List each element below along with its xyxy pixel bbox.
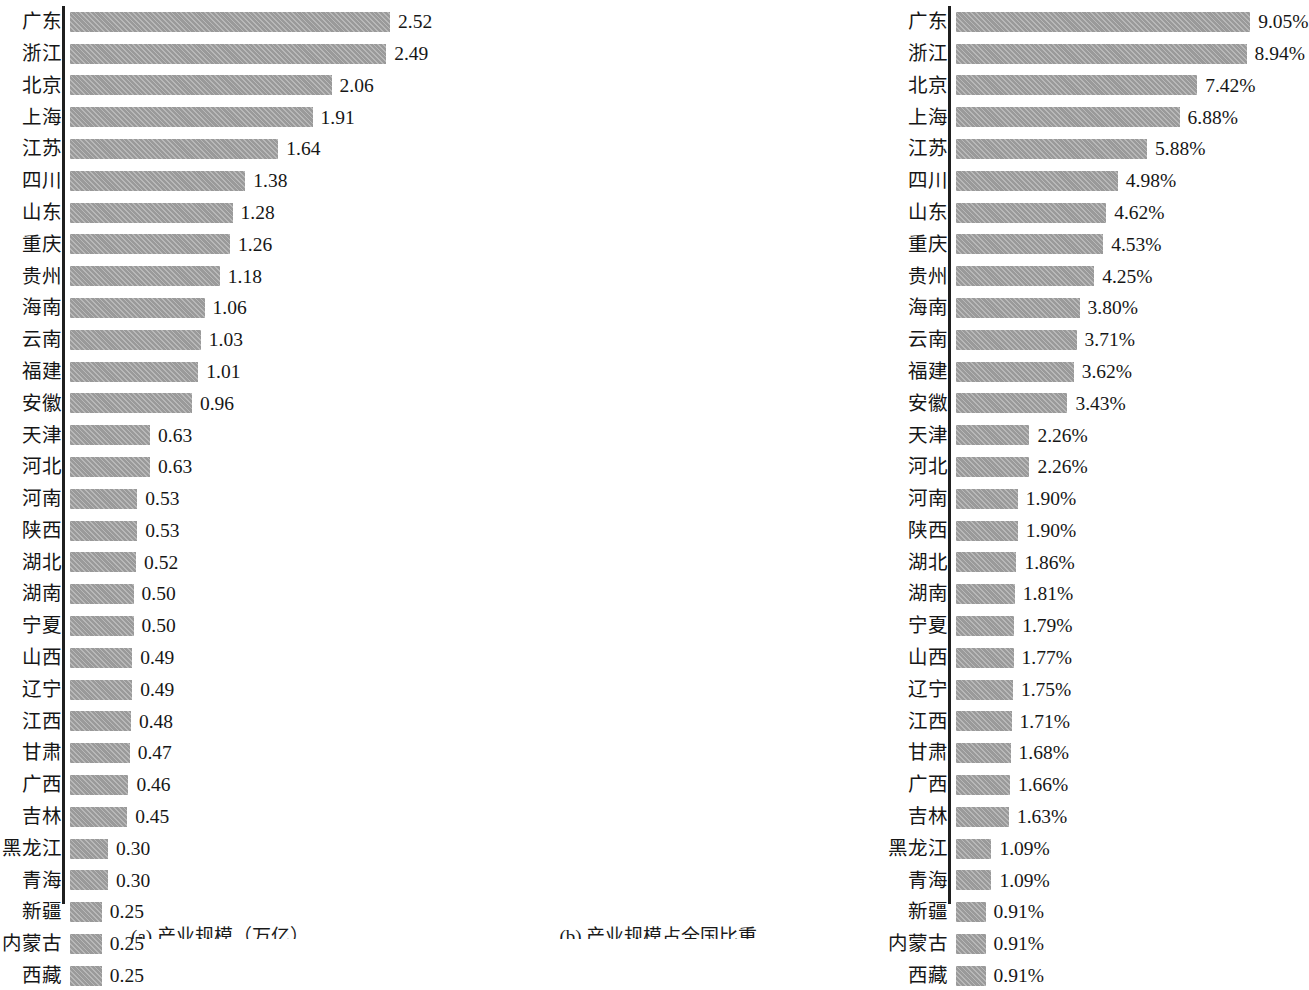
bar-row: 贵州4.25%	[440, 260, 877, 292]
bar	[956, 234, 1103, 254]
chart-panel-b: 广东9.05%浙江8.94%北京7.42%上海6.88%江苏5.88%四川4.9…	[440, 0, 877, 939]
bar-row: 安徽0.96	[0, 388, 440, 420]
bar-container: 3.71%	[953, 324, 1135, 356]
bar	[956, 12, 1250, 32]
bar	[956, 489, 1018, 509]
category-label: 陕西	[440, 521, 953, 541]
bar-row: 福建3.62%	[440, 356, 877, 388]
value-label: 1.18	[220, 267, 262, 287]
bar	[70, 75, 332, 95]
category-label: 云南	[440, 330, 953, 350]
category-label: 江苏	[0, 139, 67, 159]
bar-container: 1.38	[67, 165, 440, 197]
category-label: 广西	[0, 775, 67, 795]
category-label: 天津	[440, 426, 953, 446]
category-label: 广东	[0, 12, 67, 32]
category-label: 甘肃	[440, 743, 953, 763]
category-label: 新疆	[0, 902, 67, 922]
bar-container: 4.25%	[953, 260, 1153, 292]
bar-container: 1.77%	[953, 642, 1072, 674]
bar-container: 1.01	[67, 356, 440, 388]
category-label: 辽宁	[440, 680, 953, 700]
bar-row: 四川4.98%	[440, 165, 877, 197]
bar-container: 1.63%	[953, 801, 1067, 833]
value-label: 2.26%	[1029, 426, 1087, 446]
category-label: 四川	[440, 171, 953, 191]
value-label: 1.09%	[991, 871, 1049, 891]
bar-row: 江苏1.64	[0, 133, 440, 165]
bar	[956, 393, 1067, 413]
bar-container: 7.42%	[953, 70, 1256, 102]
bar	[956, 298, 1080, 318]
bar-container: 0.48	[67, 706, 440, 738]
category-label: 湖南	[0, 584, 67, 604]
bar-row: 西藏0.91%	[440, 960, 877, 990]
bar-row: 河北2.26%	[440, 451, 877, 483]
category-label: 广东	[440, 12, 953, 32]
category-label: 山西	[440, 648, 953, 668]
bar	[956, 902, 986, 922]
bar	[70, 584, 134, 604]
bar-container: 1.90%	[953, 483, 1076, 515]
bar-container: 0.63	[67, 451, 440, 483]
bar-container: 3.43%	[953, 388, 1126, 420]
bar-row: 四川1.38	[0, 165, 440, 197]
value-label: 4.98%	[1118, 171, 1176, 191]
bar-row: 广东9.05%	[440, 6, 877, 38]
category-label: 四川	[0, 171, 67, 191]
value-label: 1.09%	[991, 839, 1049, 859]
category-label: 北京	[0, 76, 67, 96]
bar-container: 1.09%	[953, 833, 1050, 865]
category-label: 吉林	[440, 807, 953, 827]
bar-container: 1.71%	[953, 706, 1070, 738]
bar-row: 黑龙江0.30	[0, 833, 440, 865]
value-label: 1.79%	[1014, 616, 1072, 636]
value-label: 0.52	[136, 553, 178, 573]
bar-row: 浙江2.49	[0, 38, 440, 70]
bar-row: 山西0.49	[0, 642, 440, 674]
category-label: 山东	[440, 203, 953, 223]
bar-container: 1.79%	[953, 610, 1073, 642]
category-label: 北京	[440, 76, 953, 96]
bar	[70, 680, 132, 700]
bar-row: 吉林0.45	[0, 801, 440, 833]
bar-container: 0.52	[67, 547, 440, 579]
bar-container: 1.28	[67, 197, 440, 229]
category-label: 重庆	[440, 235, 953, 255]
bar-container: 0.30	[67, 833, 440, 865]
value-label: 0.48	[131, 712, 173, 732]
bar	[956, 521, 1018, 541]
bar	[956, 711, 1012, 731]
bar	[70, 648, 132, 668]
bar-container: 0.49	[67, 674, 440, 706]
bar	[70, 266, 220, 286]
category-label: 宁夏	[440, 616, 953, 636]
bar-container: 4.53%	[953, 229, 1162, 261]
bar-row: 辽宁0.49	[0, 674, 440, 706]
category-label: 广西	[440, 775, 953, 795]
value-label: 1.91	[313, 108, 355, 128]
value-label: 1.66%	[1010, 775, 1068, 795]
bar-row: 云南1.03	[0, 324, 440, 356]
value-label: 4.62%	[1106, 203, 1164, 223]
bar	[956, 680, 1013, 700]
bar	[70, 362, 198, 382]
value-label: 3.71%	[1077, 330, 1135, 350]
bar	[956, 616, 1014, 636]
bar-container: 0.53	[67, 515, 440, 547]
value-label: 3.43%	[1067, 394, 1125, 414]
bar	[70, 902, 102, 922]
bar	[70, 44, 386, 64]
category-label: 河北	[0, 457, 67, 477]
value-label: 0.53	[137, 489, 179, 509]
bar-container: 0.96	[67, 388, 440, 420]
bar-container: 1.18	[67, 260, 440, 292]
bar-container: 1.91	[67, 101, 440, 133]
category-label: 青海	[0, 871, 67, 891]
category-label: 吉林	[0, 807, 67, 827]
bar-container: 1.75%	[953, 674, 1071, 706]
value-label: 3.62%	[1074, 362, 1132, 382]
category-label: 贵州	[440, 267, 953, 287]
value-label: 8.94%	[1247, 44, 1305, 64]
value-label: 0.30	[108, 839, 150, 859]
